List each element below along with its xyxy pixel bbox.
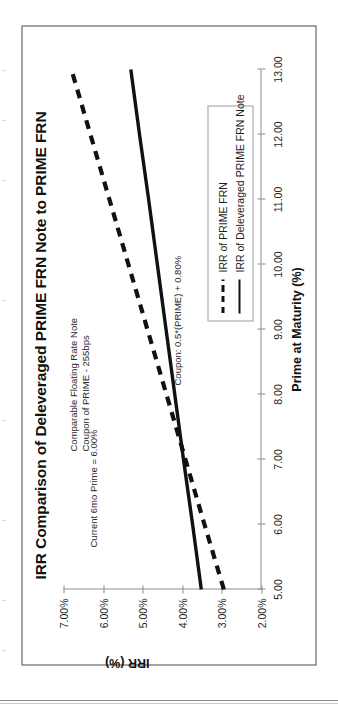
x-tick-label: 6.00 (272, 514, 284, 534)
series-line-deleveraged-note (131, 69, 201, 589)
chart-title: IRR Comparison of Deleveraged PRIME FRN … (32, 25, 50, 665)
legend-label-deleveraged-note: IRR of Deleveraged PRIME FRN Note (233, 94, 245, 272)
annotation-comparable-note: Comparable Floating Rate Note Coupon of … (68, 317, 92, 451)
x-tick-label: 10.00 (272, 251, 284, 277)
y-axis-title: IRR (%) (105, 655, 149, 669)
legend-swatch-solid-icon (234, 279, 244, 313)
y-tick-label: 4.00% (176, 598, 188, 628)
chart-figure: IRR Comparison of Deleveraged PRIME FRN … (22, 25, 317, 665)
chart-legend: IRR of PRIME FRN IRR of Deleveraged PRIM… (208, 105, 254, 321)
x-tick-label: 9.00 (272, 319, 284, 339)
rotated-figure-wrapper: IRR Comparison of Deleveraged PRIME FRN … (0, 0, 338, 723)
x-tick-label: 5.00 (272, 579, 284, 599)
legend-swatch-dashed-icon (217, 279, 227, 313)
legend-label-prime-frn: IRR of PRIME FRN (216, 182, 228, 272)
y-tick-label: 7.00% (58, 598, 70, 628)
x-tick-label: 11.00 (272, 186, 284, 212)
x-tick-label: 13.00 (272, 56, 284, 82)
annotation-coupon-formula: Coupon: 0.5*(PRIME) + 0.80% (172, 255, 184, 385)
annotation-comparable-line2: Coupon of PRIME - 255bps (80, 317, 92, 451)
legend-item-deleveraged-note: IRR of Deleveraged PRIME FRN Note (231, 113, 248, 313)
y-tick (262, 585, 263, 593)
y-tick-label: 5.00% (137, 598, 149, 628)
legend-item-prime-frn: IRR of PRIME FRN (214, 113, 231, 313)
y-tick-label: 3.00% (216, 598, 228, 628)
x-tick-label: 8.00 (272, 384, 284, 404)
annotation-comparable-line1: Comparable Floating Rate Note (68, 317, 80, 451)
x-tick-label: 7.00 (272, 449, 284, 469)
x-axis-title: Prime at Maturity (%) (290, 69, 304, 589)
y-tick-label: 2.00% (256, 598, 268, 628)
y-tick-label: 6.00% (97, 598, 109, 628)
x-tick-label: 12.00 (272, 121, 284, 147)
